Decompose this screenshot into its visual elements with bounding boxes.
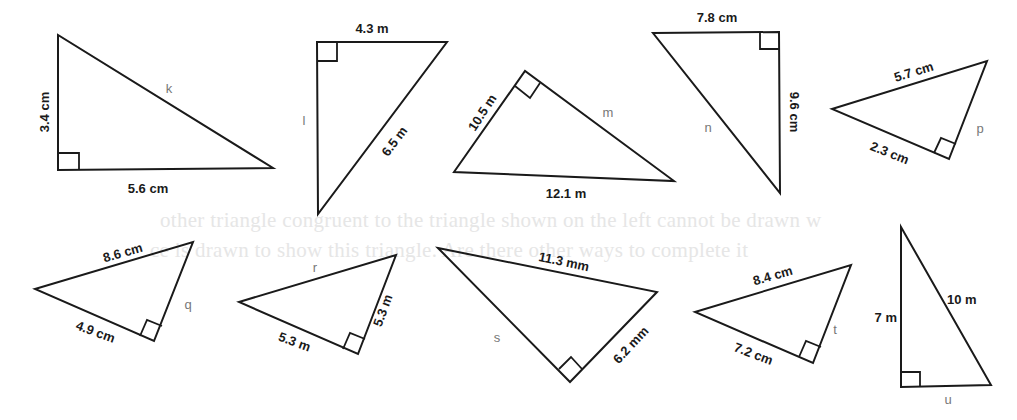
side-label: 6.5 m xyxy=(378,124,410,160)
unknown-variable: r xyxy=(313,260,318,275)
side-label: 5.3 m xyxy=(370,292,395,328)
triangle-r-outline xyxy=(239,255,396,354)
side-label: 10.5 m xyxy=(465,91,500,133)
right-angle-marker xyxy=(901,372,920,387)
side-label: 9.6 cm xyxy=(787,92,802,132)
triangle-r: 5.3 m 5.3 m r xyxy=(239,255,396,355)
right-angle-marker xyxy=(760,32,779,49)
side-label: 8.6 cm xyxy=(101,240,144,266)
triangle-n-outline xyxy=(653,32,780,193)
triangle-q: 8.6 cm 4.9 cm q xyxy=(35,240,193,346)
right-angle-marker xyxy=(515,83,540,98)
triangle-m-outline xyxy=(454,71,674,181)
triangle-u-outline xyxy=(901,227,991,387)
triangle-m: 10.5 m 12.1 m m xyxy=(454,71,674,201)
right-angle-marker xyxy=(559,357,582,369)
unknown-variable: q xyxy=(184,297,191,312)
side-label: 2.3 cm xyxy=(868,138,911,167)
unknown-variable: t xyxy=(833,322,837,337)
unknown-variable: k xyxy=(166,81,173,96)
triangle-k-outline xyxy=(58,35,273,170)
triangle-l: 4.3 m 6.5 m l xyxy=(303,21,447,214)
triangle-u: 7 m 10 m u xyxy=(875,227,991,407)
side-label: 5.7 cm xyxy=(892,59,935,85)
right-angle-marker xyxy=(58,153,79,170)
side-label: 7 m xyxy=(875,310,897,325)
triangle-n: 7.8 cm 9.6 cm n xyxy=(653,10,802,193)
triangle-p: 5.7 cm 2.3 cm p xyxy=(832,59,987,168)
triangle-t: 8.4 cm 7.2 cm t xyxy=(695,263,851,368)
unknown-variable: s xyxy=(494,330,501,345)
side-label: 6.2 mm xyxy=(610,323,652,366)
unknown-variable: n xyxy=(704,120,711,135)
triangle-s: 11.3 mm 6.2 mm s xyxy=(438,248,657,382)
side-label: 7.8 cm xyxy=(697,10,737,25)
side-label: 4.3 m xyxy=(355,21,388,36)
unknown-variable: l xyxy=(303,113,306,128)
right-angle-marker xyxy=(317,42,337,61)
unknown-variable: p xyxy=(976,121,983,136)
side-label: 3.4 cm xyxy=(37,92,52,132)
side-label: 5.6 cm xyxy=(128,181,168,196)
unknown-variable: u xyxy=(944,392,951,407)
side-label: 12.1 m xyxy=(546,186,586,201)
side-label: 10 m xyxy=(947,292,977,307)
triangle-l-outline xyxy=(317,42,447,214)
unknown-variable: m xyxy=(603,105,614,120)
triangle-k: 3.4 cm 5.6 cm k xyxy=(37,35,273,196)
